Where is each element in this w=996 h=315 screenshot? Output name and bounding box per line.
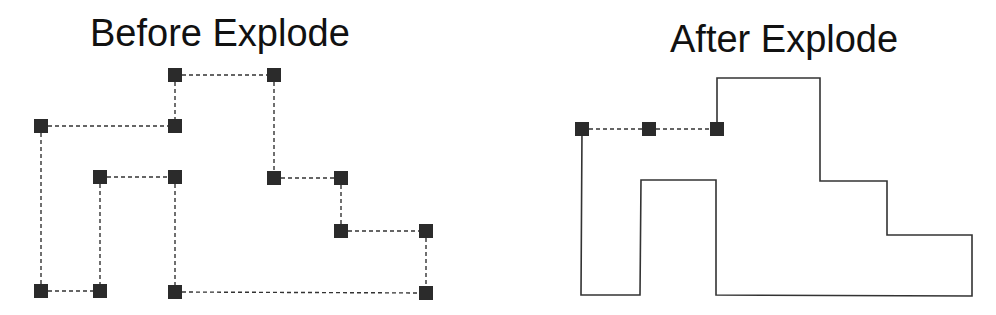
vertex-handle[interactable] xyxy=(168,285,182,299)
vertex-handle[interactable] xyxy=(419,286,433,300)
before-explode-polyline xyxy=(34,68,433,300)
vertex-handle[interactable] xyxy=(168,68,182,82)
vertex-handle[interactable] xyxy=(710,122,724,136)
vertex-handle[interactable] xyxy=(168,170,182,184)
vertex-handle[interactable] xyxy=(575,122,589,136)
vertex-handle[interactable] xyxy=(93,170,107,184)
vertex-handle[interactable] xyxy=(168,119,182,133)
vertex-handle[interactable] xyxy=(334,171,348,185)
diagram-canvas xyxy=(0,0,996,315)
vertex-handle[interactable] xyxy=(334,224,348,238)
vertex-handle[interactable] xyxy=(34,284,48,298)
exploded-outline xyxy=(581,78,972,296)
vertex-handle[interactable] xyxy=(419,224,433,238)
after-explode-shape xyxy=(575,78,972,296)
vertex-handle[interactable] xyxy=(267,68,281,82)
vertex-handle[interactable] xyxy=(267,171,281,185)
vertex-handle[interactable] xyxy=(93,284,107,298)
vertex-handle[interactable] xyxy=(642,122,656,136)
vertex-handle[interactable] xyxy=(34,119,48,133)
dashed-edge xyxy=(175,292,426,293)
